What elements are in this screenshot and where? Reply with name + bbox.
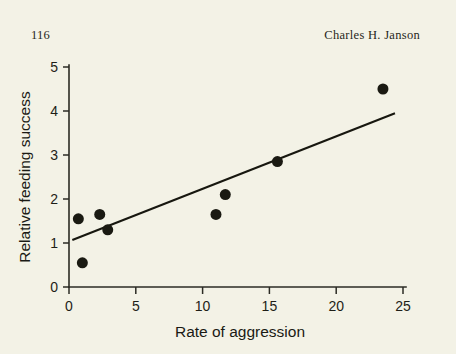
- y-tick-label-4: 4: [50, 103, 58, 119]
- book-page: 116 Charles H. Janson 0123450510152025Ra…: [0, 0, 456, 354]
- y-tick-label-5: 5: [50, 59, 58, 75]
- x-tick-label-15: 15: [262, 298, 278, 314]
- y-axis-title: Relative feeding success: [16, 91, 33, 263]
- data-point-5: [220, 189, 231, 200]
- x-tick-label-0: 0: [65, 298, 73, 314]
- data-point-2: [94, 209, 105, 220]
- plot-canvas: 0123450510152025Rate of aggressionRelati…: [0, 0, 456, 354]
- x-tick-label-20: 20: [328, 298, 344, 314]
- data-point-4: [210, 209, 221, 220]
- regression-line: [72, 113, 395, 240]
- x-tick-label-10: 10: [195, 298, 211, 314]
- x-axis-title: Rate of aggression: [175, 323, 305, 340]
- figure-scatter-plot: 0123450510152025Rate of aggressionRelati…: [0, 0, 456, 354]
- data-point-7: [377, 84, 388, 95]
- data-point-0: [73, 213, 84, 224]
- data-point-6: [272, 156, 283, 167]
- y-tick-label-3: 3: [50, 147, 58, 163]
- x-tick-label-5: 5: [132, 298, 140, 314]
- y-tick-label-2: 2: [50, 191, 58, 207]
- x-tick-label-25: 25: [395, 298, 411, 314]
- data-point-1: [77, 257, 88, 268]
- y-tick-label-0: 0: [50, 279, 58, 295]
- y-tick-label-1: 1: [50, 235, 58, 251]
- data-point-3: [102, 224, 113, 235]
